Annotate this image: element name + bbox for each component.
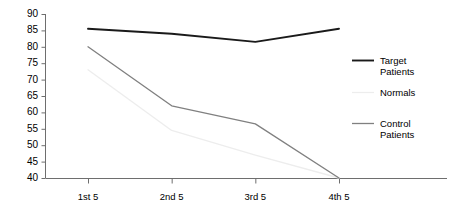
legend-swatches [352,61,374,124]
legend-entry: Control Patients [380,118,452,140]
y-tick-label: 45 [12,157,38,167]
series-line-control-patients [88,47,339,178]
y-tick-label: 50 [12,140,38,150]
x-tick-label: 1st 5 [58,192,118,202]
legend-entry: Target Patients [380,55,452,77]
x-tick-label: 2nd 5 [142,192,202,202]
x-axis-ticks [89,179,340,184]
x-tick-label: 3rd 5 [225,192,285,202]
y-tick-label: 40 [12,173,38,183]
y-axis-ticks [42,15,46,179]
y-tick-label: 85 [12,25,38,35]
y-tick-label: 65 [12,91,38,101]
plot-area [0,0,452,223]
legend-entry: Normals [380,87,452,98]
series-line-target-patients [88,29,339,42]
y-tick-label: 60 [12,107,38,117]
line-chart: 4045505560657075808590 1st 52nd 53rd 54t… [0,0,452,223]
y-tick-label: 80 [12,42,38,52]
series-lines [88,29,339,178]
y-tick-label: 55 [12,124,38,134]
x-tick-label: 4th 5 [309,192,369,202]
y-tick-label: 90 [12,9,38,19]
y-tick-label: 70 [12,75,38,85]
series-line-normals [88,70,339,178]
y-tick-label: 75 [12,58,38,68]
